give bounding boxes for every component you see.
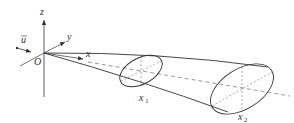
cross-section-2-label: x [237,111,243,122]
plume-diagram: z y O u x x 1 x 2 [0,0,294,123]
plume-upper-edge [44,53,268,67]
origin-label: O [34,56,41,67]
y-axis [44,42,65,53]
plume-lower-edge [44,53,228,112]
cross-section-2-subscript: 2 [244,116,248,123]
wind-vector-label: u [21,34,26,45]
cross-section-1-subscript: 1 [145,97,149,105]
y-axis-label: y [66,31,72,42]
z-axis-label: z [39,6,44,17]
wind-vector [17,48,31,52]
plume-centerline [88,62,290,96]
cross-section-1-label: x [138,92,144,103]
